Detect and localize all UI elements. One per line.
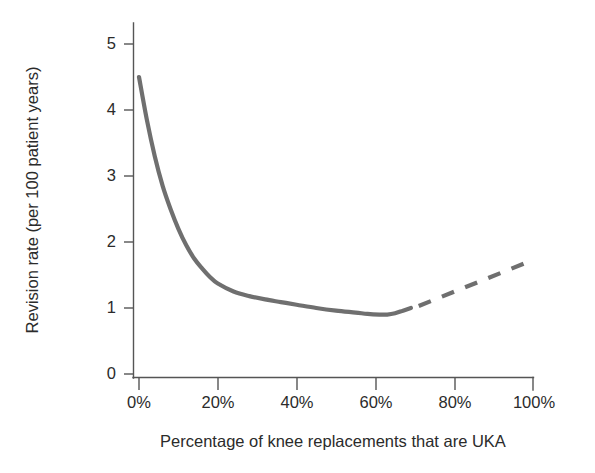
y-axis-ticks: 0 1 2 3 4 5 (107, 34, 133, 382)
chart-figure: 0 1 2 3 4 5 0% 20% 40% 60% 80% 100% P (0, 0, 595, 473)
revision-rate-line-chart: 0 1 2 3 4 5 0% 20% 40% 60% 80% 100% P (0, 0, 595, 473)
x-tick-label-60: 60% (359, 393, 392, 411)
y-tick-label-0: 0 (107, 364, 116, 382)
y-axis-title: Revision rate (per 100 patient years) (23, 67, 41, 334)
y-tick-label-4: 4 (107, 100, 116, 118)
x-tick-label-80: 80% (438, 393, 471, 411)
x-tick-label-20: 20% (201, 393, 234, 411)
series-extrapolated-revision-rate (419, 263, 525, 306)
series-observed-revision-rate (139, 77, 411, 315)
y-tick-label-3: 3 (107, 166, 116, 184)
x-tick-label-100: 100% (513, 393, 556, 411)
axes-group (133, 23, 534, 390)
x-axis-title: Percentage of knee replacements that are… (160, 432, 506, 450)
x-tick-label-40: 40% (280, 393, 313, 411)
y-tick-label-1: 1 (107, 298, 116, 316)
data-series-group (139, 77, 525, 315)
x-axis-ticks: 0% 20% 40% 60% 80% 100% (127, 378, 555, 411)
y-tick-label-2: 2 (107, 232, 116, 250)
y-tick-label-5: 5 (107, 34, 116, 52)
x-tick-label-0: 0% (127, 393, 151, 411)
